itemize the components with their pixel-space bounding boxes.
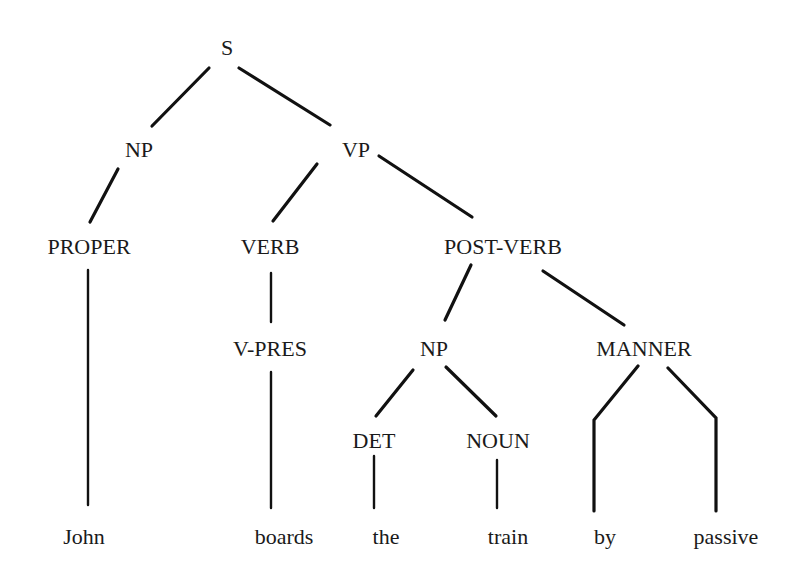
edge-s-np bbox=[152, 68, 209, 126]
node-v-pres: V-PRES bbox=[233, 336, 307, 361]
node-verb: VERB bbox=[241, 234, 300, 259]
edge-manner-by bbox=[594, 366, 638, 511]
leaf-john: John bbox=[63, 524, 105, 549]
tree-edges bbox=[88, 68, 716, 511]
edge-np-proper bbox=[90, 169, 118, 222]
node-proper: PROPER bbox=[47, 234, 130, 259]
parse-tree-diagram: S NP VP PROPER VERB POST-VERB V-PRES NP … bbox=[0, 0, 807, 582]
leaf-boards: boards bbox=[255, 524, 314, 549]
edge-vp-verb bbox=[273, 164, 317, 221]
leaf-the: the bbox=[373, 524, 400, 549]
tree-nodes: S NP VP PROPER VERB POST-VERB V-PRES NP … bbox=[47, 35, 692, 453]
node-noun: NOUN bbox=[466, 428, 530, 453]
edge-postverb-np bbox=[445, 265, 471, 320]
node-vp: VP bbox=[342, 137, 370, 162]
node-np: NP bbox=[125, 137, 153, 162]
edge-np-noun bbox=[446, 367, 496, 416]
node-post-verb: POST-VERB bbox=[444, 234, 562, 259]
leaf-by: by bbox=[594, 524, 616, 549]
edge-np-det bbox=[376, 370, 413, 416]
edge-vp-postverb bbox=[379, 156, 472, 217]
node-manner: MANNER bbox=[596, 336, 692, 361]
leaf-train: train bbox=[488, 524, 528, 549]
edge-postverb-manner bbox=[543, 271, 624, 325]
tree-leaves: John boards the train by passive bbox=[63, 524, 758, 549]
node-np-object: NP bbox=[420, 336, 448, 361]
leaf-passive: passive bbox=[694, 524, 759, 549]
node-s: S bbox=[221, 35, 233, 60]
edge-manner-passive bbox=[668, 368, 716, 511]
edge-s-vp bbox=[239, 68, 330, 125]
node-det: DET bbox=[353, 428, 396, 453]
